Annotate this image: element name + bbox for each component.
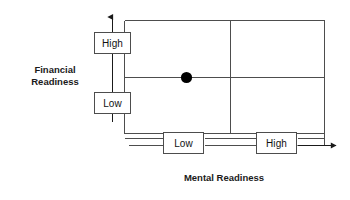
data-point-marker (181, 72, 192, 83)
plot-frame-top-right (125, 21, 325, 145)
diagram-canvas (0, 0, 350, 200)
y-tick-box-high[interactable]: High (94, 32, 131, 54)
readiness-matrix-diagram: High Low Low High Financial Readiness Me… (0, 0, 350, 200)
x-tick-box-low[interactable]: Low (163, 132, 204, 154)
x-tick-label-high: High (266, 138, 287, 149)
y-tick-label-high: High (102, 38, 123, 49)
y-tick-label-low: Low (103, 98, 122, 109)
x-tick-box-high[interactable]: High (256, 132, 297, 154)
x-axis-title: Mental Readiness (150, 172, 298, 184)
y-axis-title: Financial Readiness (18, 64, 92, 87)
x-tick-label-low: Low (174, 138, 193, 149)
y-tick-box-low[interactable]: Low (94, 92, 131, 114)
